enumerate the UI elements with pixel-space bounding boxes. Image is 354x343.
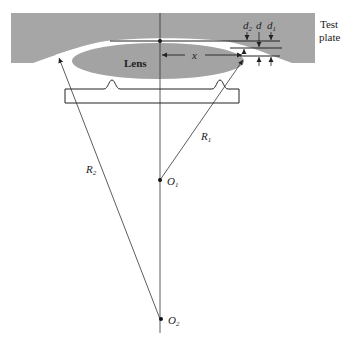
r2-label: R2: [85, 163, 97, 177]
r1-label: R1: [200, 130, 211, 144]
test-plate-label-line2: plate: [319, 31, 340, 43]
o2-label: O2: [168, 314, 180, 328]
lens-test-plate-diagram: Lens x d2 d d1 Test plate R1 R2 O1 O2: [0, 0, 354, 343]
test-plate-label-line1: Test: [320, 18, 338, 30]
o1-point: [158, 178, 162, 182]
lens: [72, 43, 244, 79]
lens-label: Lens: [124, 57, 147, 69]
d-label: d: [256, 19, 262, 31]
o1-label: O1: [167, 175, 178, 189]
o2-point: [159, 317, 163, 321]
x-label: x: [191, 49, 197, 61]
lens-holder: [65, 80, 239, 103]
